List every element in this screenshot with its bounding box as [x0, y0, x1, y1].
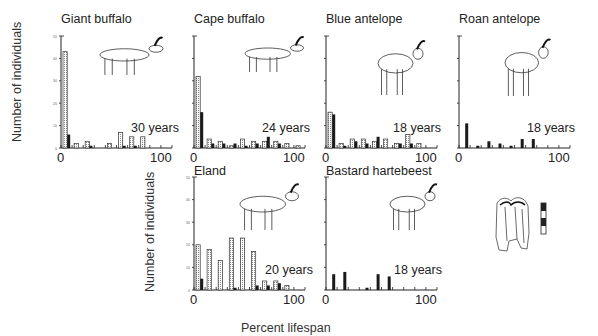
blue-antelope-illustration	[378, 41, 425, 95]
bar-hatched	[417, 144, 421, 148]
lifespan-annotation: 24 years	[262, 121, 310, 135]
bar-solid	[532, 139, 535, 148]
bar-solid	[343, 146, 346, 148]
bar-solid	[343, 272, 346, 290]
x-tick-0: 0	[190, 292, 197, 307]
bar-hatched	[263, 281, 267, 290]
svg-text:10: 10	[186, 266, 190, 270]
svg-text:50: 50	[53, 35, 57, 39]
bar-solid	[89, 146, 92, 148]
panel-title: Eland	[194, 164, 226, 178]
bar-hatched	[207, 249, 211, 290]
bar-hatched	[274, 281, 278, 290]
bar-solid	[234, 144, 237, 148]
eland-illustration	[240, 184, 299, 230]
bar-solid	[332, 274, 335, 290]
panel-title: Cape buffalo	[194, 12, 265, 26]
panel-title: Blue antelope	[326, 12, 402, 26]
x-tick-100: 100	[150, 150, 172, 165]
bar-hatched	[74, 144, 78, 148]
bar-hatched	[350, 139, 354, 148]
bar-hatched	[406, 135, 410, 148]
panel-title: Roan antelope	[459, 12, 540, 26]
bar-solid	[521, 139, 524, 148]
panel-title: Bastard hartebeest	[326, 164, 432, 178]
bar-hatched	[107, 144, 111, 148]
bar-solid	[278, 144, 281, 148]
bar-hatched	[296, 146, 300, 148]
bar-hatched	[85, 141, 89, 148]
lifespan-annotation: 18 years	[393, 121, 441, 135]
bar-hatched	[361, 139, 365, 148]
x-tick-100: 100	[548, 150, 570, 165]
bar-hatched	[339, 144, 343, 148]
bar-solid	[267, 285, 270, 290]
bar-solid	[256, 144, 259, 148]
bar-solid	[399, 144, 402, 148]
bar-solid	[366, 288, 369, 290]
bar-hatched	[252, 252, 256, 290]
bar-hatched	[196, 245, 200, 290]
bar-hatched	[263, 141, 267, 148]
bar-solid	[377, 137, 380, 148]
bar-hatched	[274, 141, 278, 148]
panel-title: Giant buffalo	[61, 12, 132, 26]
svg-text:20: 20	[53, 102, 57, 106]
bar-hatched	[229, 238, 233, 290]
bar-solid	[200, 279, 203, 290]
bar-solid	[222, 144, 225, 148]
x-tick-100: 100	[283, 292, 305, 307]
lifespan-annotation: 20 years	[265, 263, 313, 277]
bar-hatched	[229, 146, 233, 148]
bar-solid	[487, 141, 490, 148]
bar-solid	[234, 288, 237, 290]
bar-hatched	[218, 141, 222, 148]
bastard-hartebeest-illustration	[390, 184, 437, 230]
giant-buffalo-illustration	[100, 38, 163, 75]
x-tick-100: 100	[415, 150, 437, 165]
bar-solid	[211, 144, 214, 148]
bar-hatched	[119, 132, 123, 148]
bar-solid	[510, 146, 513, 148]
svg-text:50: 50	[186, 176, 190, 180]
bar-solid	[134, 146, 137, 148]
svg-text:40: 40	[186, 198, 190, 202]
bar-solid	[278, 283, 281, 290]
lifespan-annotation: 30 years	[131, 121, 179, 135]
svg-text:40: 40	[53, 57, 57, 61]
svg-text:30: 30	[186, 221, 190, 225]
svg-text:10: 10	[53, 124, 57, 128]
bar-solid	[476, 146, 479, 148]
bar-solid	[123, 146, 126, 148]
lifespan-annotation: 18 years	[394, 263, 442, 277]
bar-hatched	[63, 52, 67, 148]
bar-hatched	[218, 261, 222, 290]
bar-hatched	[285, 285, 289, 290]
x-tick-0: 0	[322, 292, 329, 307]
bar-solid	[410, 144, 413, 148]
svg-text:20: 20	[186, 243, 190, 247]
x-tick-100: 100	[415, 292, 437, 307]
chart-canvas: 0102030405001020304050	[0, 0, 598, 336]
bar-solid	[332, 114, 335, 148]
bar-solid	[200, 112, 203, 148]
bar-solid	[499, 144, 502, 148]
cape-buffalo-illustration	[245, 37, 304, 72]
bar-hatched	[130, 137, 134, 148]
x-tick-0: 0	[57, 150, 64, 165]
bar-hatched	[141, 137, 145, 148]
x-tick-0: 0	[190, 150, 197, 165]
bar-solid	[388, 276, 391, 290]
bar-hatched	[372, 141, 376, 148]
bar-solid	[377, 274, 380, 290]
bar-hatched	[207, 139, 211, 148]
bar-hatched	[395, 144, 399, 148]
x-tick-0: 0	[455, 150, 462, 165]
lifespan-annotation: 18 years	[527, 121, 575, 135]
bar-solid	[366, 144, 369, 148]
x-tick-100: 100	[283, 150, 305, 165]
bar-solid	[245, 146, 248, 148]
bar-hatched	[285, 144, 289, 148]
bar-hatched	[240, 139, 244, 148]
bar-solid	[465, 123, 468, 148]
